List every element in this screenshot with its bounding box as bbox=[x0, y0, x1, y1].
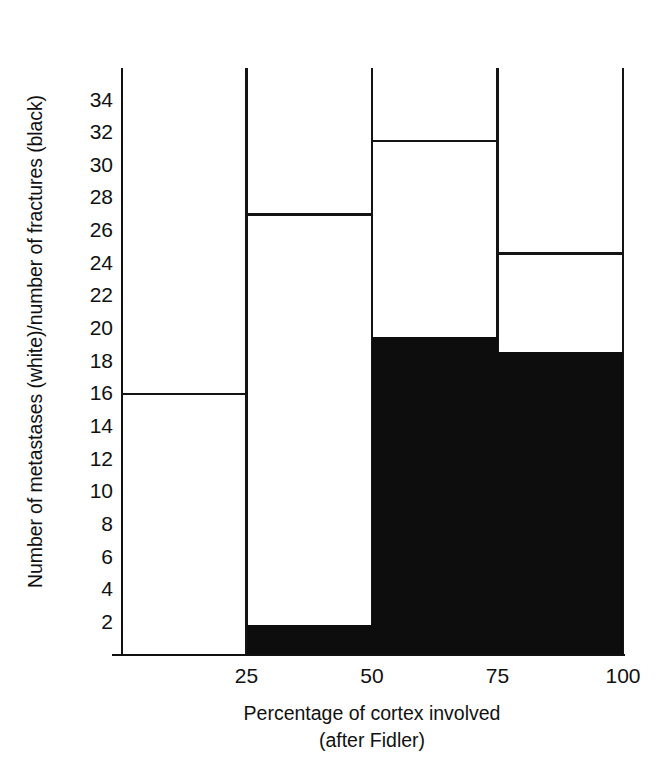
y-axis-tick-label: 20 bbox=[71, 317, 113, 338]
x-axis-title-main: Percentage of cortex involved bbox=[121, 700, 623, 727]
bar-top-metastases bbox=[372, 140, 498, 142]
x-axis-title: Percentage of cortex involved (after Fid… bbox=[121, 700, 623, 754]
y-axis-tick-label: 24 bbox=[71, 252, 113, 273]
x-axis-tick-label: 50 bbox=[337, 664, 407, 688]
bar-fractures bbox=[247, 625, 373, 654]
x-axis-line bbox=[112, 654, 625, 656]
y-axis-tick-label: 6 bbox=[71, 546, 113, 567]
x-axis-tick-label: 75 bbox=[463, 664, 533, 688]
y-axis-tick-label: 26 bbox=[71, 219, 113, 240]
bar-fractures bbox=[372, 337, 498, 654]
x-axis-title-sub: (after Fidler) bbox=[121, 727, 623, 754]
y-axis-tick-label: 16 bbox=[71, 382, 113, 403]
bar-fractures bbox=[498, 352, 624, 654]
y-axis-title: Number of metastases (white)/number of f… bbox=[24, 2, 47, 682]
x-axis-tick-label: 25 bbox=[212, 664, 282, 688]
y-axis-tick-label: 30 bbox=[71, 154, 113, 175]
plot-area bbox=[121, 60, 623, 656]
y-axis-title-container: Number of metastases (white)/number of f… bbox=[0, 0, 60, 700]
y-axis-tick-label: 34 bbox=[71, 89, 113, 110]
y-axis-tick-label: 8 bbox=[71, 513, 113, 534]
y-axis-tick-label: 12 bbox=[71, 448, 113, 469]
bin-divider bbox=[245, 68, 247, 654]
chart-figure: Number of metastases (white)/number of f… bbox=[0, 0, 669, 778]
y-axis-tick-label: 14 bbox=[71, 415, 113, 436]
y-axis-tick-label: 32 bbox=[71, 121, 113, 142]
y-axis-tick-label: 2 bbox=[71, 611, 113, 632]
y-axis-tick-label: 18 bbox=[71, 350, 113, 371]
y-axis-tick-labels: 343230282624222018161412108642 bbox=[66, 0, 113, 700]
bar-top-metastases bbox=[121, 393, 247, 395]
y-axis-tick-label: 22 bbox=[71, 284, 113, 305]
y-axis-line bbox=[121, 68, 123, 656]
bar-top-metastases bbox=[247, 213, 373, 215]
y-axis-tick-label: 4 bbox=[71, 578, 113, 599]
bar-top-metastases bbox=[498, 252, 624, 254]
y-axis-tick-label: 28 bbox=[71, 186, 113, 207]
y-axis-tick-label: 10 bbox=[71, 480, 113, 501]
x-axis-tick-label: 100 bbox=[588, 664, 658, 688]
